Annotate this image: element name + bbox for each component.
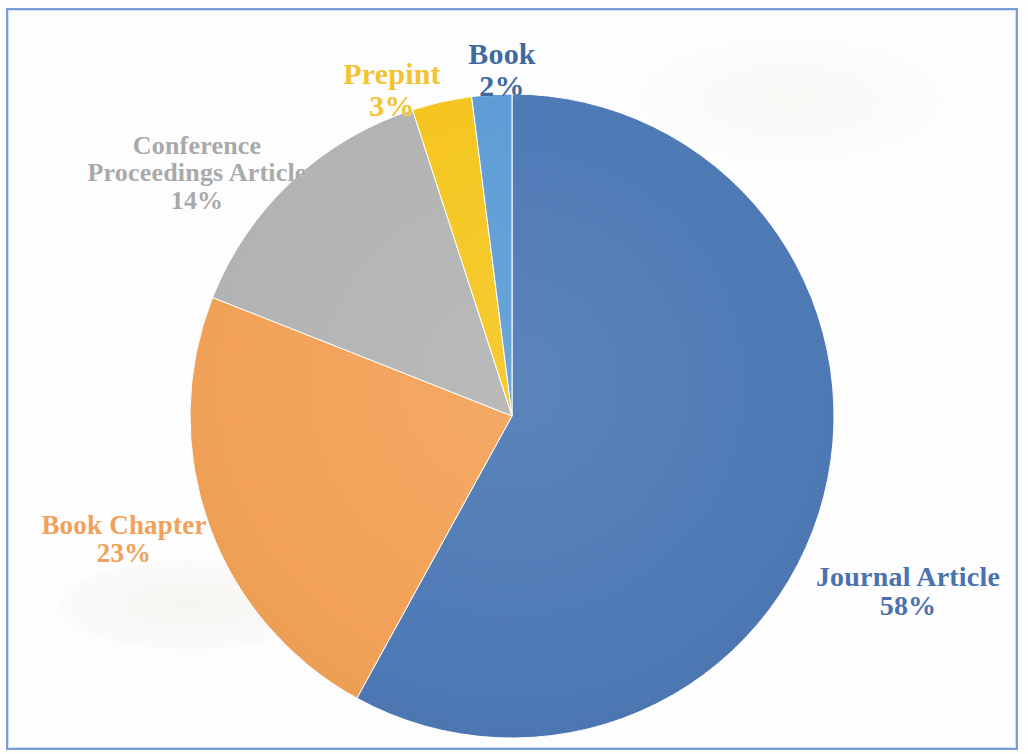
figure-page: Book 2% Prepint 3% Conference Proceeding… [0,0,1028,754]
slice-label-conference-name: Conference Proceedings Article [87,131,306,188]
slice-label-book-chapter: Book Chapter 23% [10,482,238,596]
slice-label-book-chapter-name: Book Chapter [41,510,206,540]
slice-label-journal-value: 58% [796,591,1020,621]
slice-label-journal-name: Journal Article [816,561,1000,592]
slice-label-book-name: Book [468,37,536,70]
slice-label-conference-value: 14% [52,187,342,215]
slice-label-conference-proceedings-article: Conference Proceedings Article 14% [52,104,342,242]
slice-label-journal-article: Journal Article 58% [796,532,1020,651]
slice-label-prepint-name: Prepint [343,57,441,90]
slice-label-book-chapter-value: 23% [10,539,238,568]
